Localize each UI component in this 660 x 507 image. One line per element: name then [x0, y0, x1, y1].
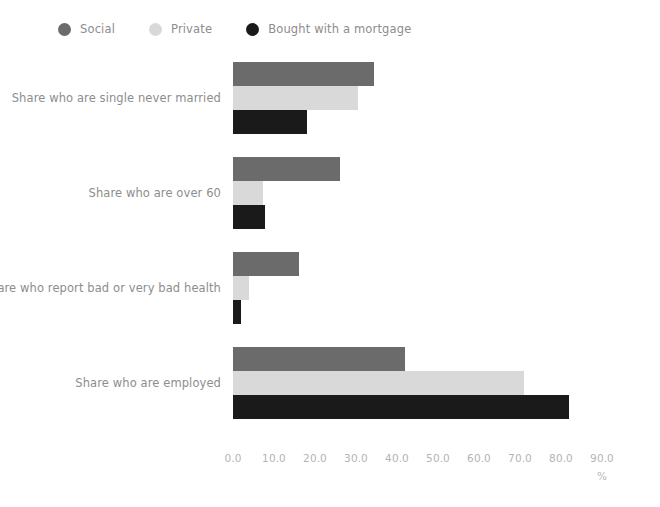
- bar[interactable]: [233, 110, 307, 134]
- x-axis-tick-label: 40.0: [385, 452, 409, 464]
- category-label: Share who are over 60: [0, 186, 233, 200]
- bar-row: [233, 347, 602, 371]
- chart-plot-area: Share who are single never marriedShare …: [0, 0, 660, 507]
- bar-row: [233, 157, 602, 181]
- bar-row: [233, 110, 602, 134]
- bar-group: Share who are employed: [233, 347, 602, 419]
- bar[interactable]: [233, 86, 358, 110]
- x-axis-tick-label: 50.0: [426, 452, 450, 464]
- bar[interactable]: [233, 62, 374, 86]
- bar[interactable]: [233, 371, 524, 395]
- bar[interactable]: [233, 300, 241, 324]
- bar[interactable]: [233, 205, 265, 229]
- x-axis-tick-label: 30.0: [344, 452, 368, 464]
- x-axis-tick-label: 90.0: [590, 452, 614, 464]
- x-axis-tick-label: 60.0: [467, 452, 491, 464]
- x-axis-tick-label: 70.0: [508, 452, 532, 464]
- bar-row: [233, 300, 602, 324]
- bar-row: Share who report bad or very bad health: [233, 276, 602, 300]
- bar-row: [233, 62, 602, 86]
- bar-row: Share who are single never married: [233, 86, 602, 110]
- bar-group: Share who are over 60: [233, 157, 602, 229]
- bar-row: [233, 205, 602, 229]
- bar[interactable]: [233, 181, 263, 205]
- x-axis-tick-label: 10.0: [262, 452, 286, 464]
- x-axis-tick-label: 0.0: [225, 452, 242, 464]
- bar-row: Share who are over 60: [233, 181, 602, 205]
- bar-group: Share who are single never married: [233, 62, 602, 134]
- bar-row: [233, 395, 602, 419]
- bar-groups: Share who are single never marriedShare …: [233, 62, 602, 447]
- x-axis-title: %: [597, 470, 607, 482]
- x-axis: 0.010.020.030.040.050.060.070.080.090.0: [233, 452, 602, 472]
- bar[interactable]: [233, 276, 249, 300]
- bar-row: [233, 252, 602, 276]
- category-label: Share who are employed: [0, 376, 233, 390]
- bar[interactable]: [233, 347, 405, 371]
- x-axis-tick-label: 80.0: [549, 452, 573, 464]
- bar[interactable]: [233, 157, 340, 181]
- category-label: Share who are single never married: [0, 91, 233, 105]
- bar[interactable]: [233, 252, 299, 276]
- x-axis-tick-label: 20.0: [303, 452, 327, 464]
- bar-group: Share who report bad or very bad health: [233, 252, 602, 324]
- category-label: Share who report bad or very bad health: [0, 281, 233, 295]
- bar-row: Share who are employed: [233, 371, 602, 395]
- bar[interactable]: [233, 395, 569, 419]
